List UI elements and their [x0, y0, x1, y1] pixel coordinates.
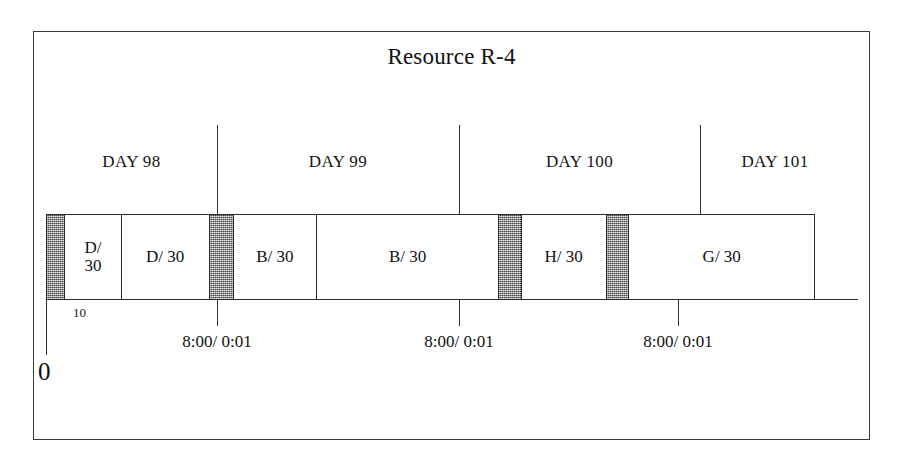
axis-tick-3 [678, 300, 679, 326]
bar-segment-setup-4[interactable] [606, 215, 630, 299]
day-label-100: DAY 100 [459, 152, 700, 172]
axis-tick-2 [459, 300, 460, 326]
bar-segment-setup-2[interactable] [209, 215, 234, 299]
axis-tick-label-1: 8:00/ 0:01 [152, 332, 282, 352]
axis-tick-1 [217, 300, 218, 326]
resource-bar: D/ 30 D/ 30 B/ 30 B/ 30 H/ 30 G/ 30 [46, 214, 815, 300]
axis-minor-label: 10 [73, 305, 86, 321]
time-axis-line [46, 299, 858, 300]
axis-origin-label: 0 [38, 358, 51, 386]
bar-segment-task-d2[interactable]: D/ 30 [121, 215, 209, 299]
axis-tick-label-3: 8:00/ 0:01 [613, 332, 743, 352]
bar-segment-task-h[interactable]: H/ 30 [522, 215, 606, 299]
bar-segment-task-d1[interactable]: D/ 30 [65, 215, 121, 299]
day-label-98: DAY 98 [46, 152, 217, 172]
bar-segment-setup-3[interactable] [498, 215, 522, 299]
day-label-99: DAY 99 [217, 152, 459, 172]
bar-segment-setup-1[interactable] [47, 215, 65, 299]
page-title: Resource R-4 [33, 44, 870, 70]
bar-segment-task-b1[interactable]: B/ 30 [234, 215, 317, 299]
origin-tick [46, 299, 47, 355]
axis-tick-label-2: 8:00/ 0:01 [394, 332, 524, 352]
bar-segment-task-b2[interactable]: B/ 30 [316, 215, 498, 299]
resource-gantt-chart: Resource R-4 DAY 98 DAY 99 DAY 100 DAY 1… [0, 0, 900, 468]
day-label-101: DAY 101 [700, 152, 850, 172]
bar-segment-task-g[interactable]: G/ 30 [629, 215, 814, 299]
